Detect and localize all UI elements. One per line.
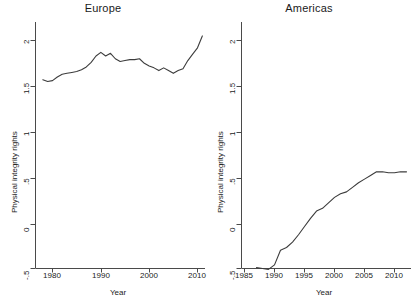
plot-area-europe — [0, 0, 206, 306]
panel-americas: Americas Physical integrity rights 2 1.5… — [206, 0, 412, 306]
data-line-europe — [43, 36, 203, 82]
data-line-americas — [257, 172, 407, 270]
figure-two-panel-line-charts: Europe Physical integrity rights 2 1.5 1… — [0, 0, 413, 306]
panel-europe: Europe Physical integrity rights 2 1.5 1… — [0, 0, 206, 306]
plot-area-americas — [206, 0, 412, 306]
